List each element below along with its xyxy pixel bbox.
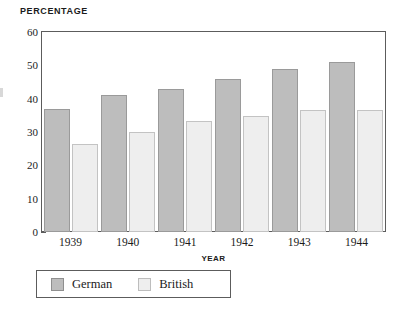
bar-group: [214, 32, 271, 232]
bar-chart-figure: Percentage 0102030405060 193919401941194…: [0, 0, 411, 316]
bar-group: [99, 32, 156, 232]
bar-german-1943: [272, 69, 298, 232]
bar-german-1944: [329, 62, 355, 232]
x-axis-title: Year: [41, 250, 386, 264]
bar-british-1941: [186, 121, 212, 232]
bar-german-1939: [44, 109, 70, 232]
y-tick-label: 30: [2, 127, 38, 138]
x-tick-label: 1941: [173, 236, 196, 248]
bar-german-1940: [101, 95, 127, 232]
y-tick-label: 20: [2, 160, 38, 171]
y-tick-label: 60: [2, 27, 38, 38]
bar-british-1940: [129, 132, 155, 232]
bar-group: [42, 32, 99, 232]
british-swatch: [138, 278, 151, 291]
chart-legend: GermanBritish: [36, 270, 231, 298]
y-tick-label: 10: [2, 193, 38, 204]
bar-british-1943: [300, 110, 326, 232]
x-tick-label: 1942: [231, 236, 254, 248]
bar-british-1939: [72, 144, 98, 232]
german-swatch: [51, 278, 64, 291]
y-axis-tick-labels: 0102030405060: [0, 0, 38, 316]
bar-british-1942: [243, 116, 269, 232]
bar-german-1942: [215, 79, 241, 232]
legend-entry-british: British: [138, 277, 193, 292]
x-tick-label: 1940: [116, 236, 139, 248]
bar-group: [271, 32, 328, 232]
bar-group: [328, 32, 385, 232]
legend-entry-german: German: [51, 277, 112, 292]
bar-british-1944: [357, 110, 383, 232]
y-tick-label: 0: [2, 227, 38, 238]
y-major-tick: [41, 232, 46, 233]
x-tick-label: 1939: [59, 236, 82, 248]
y-tick-label: 50: [2, 60, 38, 71]
y-tick-label: 40: [2, 93, 38, 104]
x-tick-label: 1943: [288, 236, 311, 248]
bar-german-1941: [158, 89, 184, 232]
legend-label: German: [72, 277, 112, 292]
x-tick-label: 1944: [345, 236, 368, 248]
plot-area: [42, 32, 385, 232]
bar-group: [156, 32, 213, 232]
legend-label: British: [159, 277, 193, 292]
